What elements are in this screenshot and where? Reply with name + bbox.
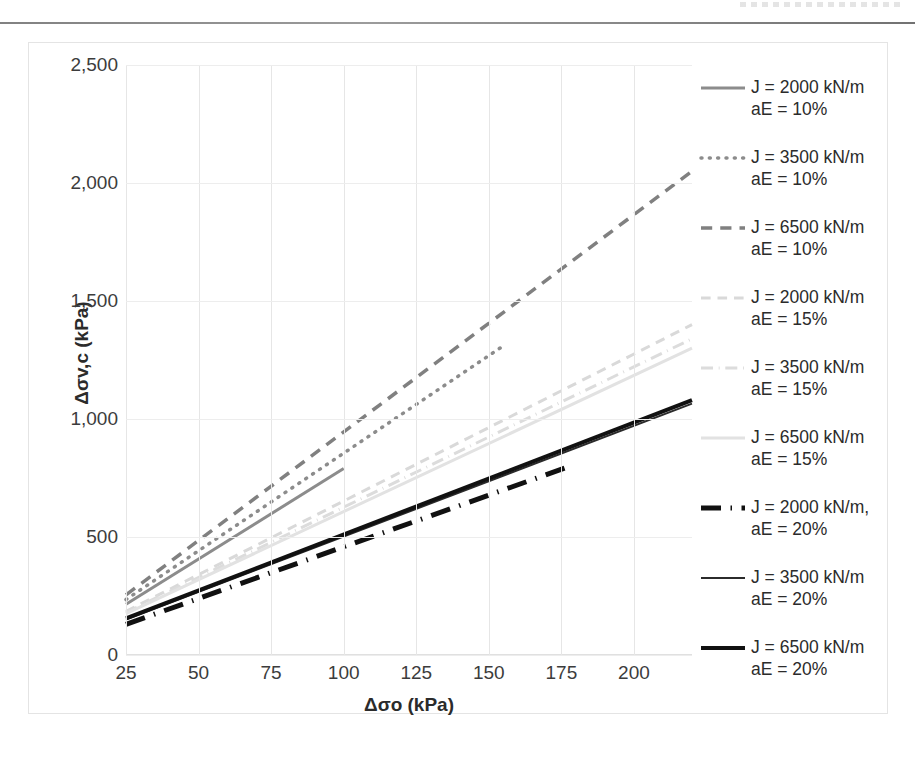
x-tick-label: 200	[618, 662, 650, 684]
chart-container: Δσv,c (kPa) Δσo (kPa) 05001,0001,5002,00…	[28, 42, 888, 714]
legend-item-label: J = 3500 kN/m aE = 10%	[751, 146, 864, 190]
legend-item[interactable]: J = 6500 kN/m aE = 20%	[700, 636, 888, 680]
x-axis-title: Δσo (kPa)	[126, 694, 692, 716]
legend-line-swatch	[700, 289, 746, 307]
x-gridline	[416, 65, 417, 655]
legend-line-swatch	[700, 149, 746, 167]
legend-item-label: J = 3500 kN/m aE = 20%	[751, 566, 864, 610]
legend-line-swatch	[700, 499, 746, 517]
y-gridline	[126, 65, 692, 66]
legend-item-label: J = 2000 kN/m aE = 15%	[751, 286, 864, 330]
x-gridline	[271, 65, 272, 655]
y-gridline	[126, 301, 692, 302]
page-scan-artifact-top	[740, 2, 900, 7]
legend-line-swatch	[700, 639, 746, 657]
y-tick-label: 1,500	[48, 290, 118, 312]
series-line	[126, 400, 692, 618]
legend-line-swatch	[700, 219, 746, 237]
legend-item-label: J = 2000 kN/m, aE = 20%	[751, 496, 869, 540]
x-gridline	[126, 65, 127, 655]
chart-legend: J = 2000 kN/m aE = 10%J = 3500 kN/m aE =…	[700, 58, 888, 694]
legend-item[interactable]: J = 6500 kN/m aE = 15%	[700, 426, 888, 470]
x-gridline	[634, 65, 635, 655]
y-tick-label: 0	[48, 644, 118, 666]
x-tick-label: 150	[473, 662, 505, 684]
plot-area	[126, 65, 692, 655]
series-line	[126, 346, 503, 600]
series-line	[126, 171, 692, 595]
y-gridline	[126, 183, 692, 184]
legend-item-label: J = 6500 kN/m aE = 10%	[751, 216, 864, 260]
series-line	[126, 325, 692, 612]
x-tick-label: 175	[546, 662, 578, 684]
y-tick-label: 500	[48, 526, 118, 548]
legend-item[interactable]: J = 3500 kN/m aE = 10%	[700, 146, 888, 190]
y-tick-label: 1,000	[48, 408, 118, 430]
legend-item-label: J = 3500 kN/m aE = 15%	[751, 356, 864, 400]
x-gridline	[199, 65, 200, 655]
y-tick-label: 2,500	[48, 54, 118, 76]
legend-line-swatch	[700, 429, 746, 447]
plot-lines	[126, 65, 692, 655]
legend-item[interactable]: J = 2000 kN/m aE = 15%	[700, 286, 888, 330]
x-gridline	[344, 65, 345, 655]
x-tick-label: 125	[400, 662, 432, 684]
legend-line-swatch	[700, 569, 746, 587]
y-gridline	[126, 655, 692, 656]
y-axis-tick-labels: 05001,0001,5002,0002,500	[38, 65, 118, 655]
x-tick-label: 75	[261, 662, 282, 684]
legend-item-label: J = 2000 kN/m aE = 10%	[751, 76, 864, 120]
page-horizontal-rule	[0, 22, 915, 24]
legend-item[interactable]: J = 3500 kN/m aE = 15%	[700, 356, 888, 400]
x-tick-label: 25	[115, 662, 136, 684]
y-tick-label: 2,000	[48, 172, 118, 194]
legend-item[interactable]: J = 2000 kN/m aE = 10%	[700, 76, 888, 120]
legend-item[interactable]: J = 3500 kN/m aE = 20%	[700, 566, 888, 610]
x-tick-label: 50	[188, 662, 209, 684]
series-line	[126, 339, 692, 613]
series-line	[126, 348, 692, 614]
legend-item-label: J = 6500 kN/m aE = 20%	[751, 636, 864, 680]
legend-line-swatch	[700, 359, 746, 377]
legend-item-label: J = 6500 kN/m aE = 15%	[751, 426, 864, 470]
y-gridline	[126, 419, 692, 420]
x-axis-tick-labels: 255075100125150175200	[126, 662, 692, 692]
legend-line-swatch	[700, 79, 746, 97]
legend-item[interactable]: J = 6500 kN/m aE = 10%	[700, 216, 888, 260]
x-tick-label: 100	[328, 662, 360, 684]
y-gridline	[126, 537, 692, 538]
x-gridline	[489, 65, 490, 655]
x-gridline	[561, 65, 562, 655]
legend-item[interactable]: J = 2000 kN/m, aE = 20%	[700, 496, 888, 540]
